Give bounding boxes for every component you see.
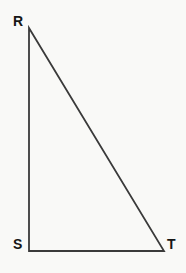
geometry-figure: R S T [0, 0, 186, 273]
triangle-rst-outline [29, 28, 164, 251]
triangle-shape [0, 0, 186, 273]
vertex-label-r: R [13, 14, 23, 28]
vertex-label-s: S [13, 237, 22, 251]
vertex-label-t: T [167, 237, 176, 251]
